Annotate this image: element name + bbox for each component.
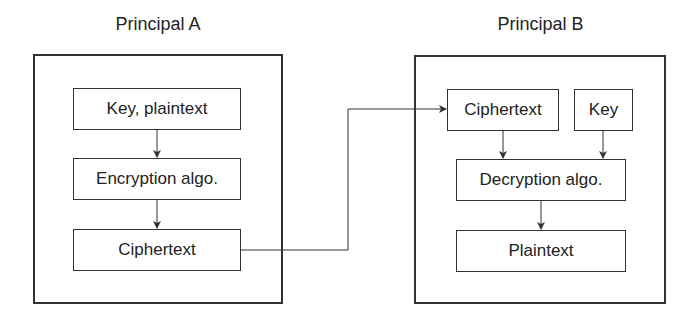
arrow-ciphertext-transfer bbox=[241, 109, 446, 250]
arrows-layer bbox=[0, 0, 695, 323]
